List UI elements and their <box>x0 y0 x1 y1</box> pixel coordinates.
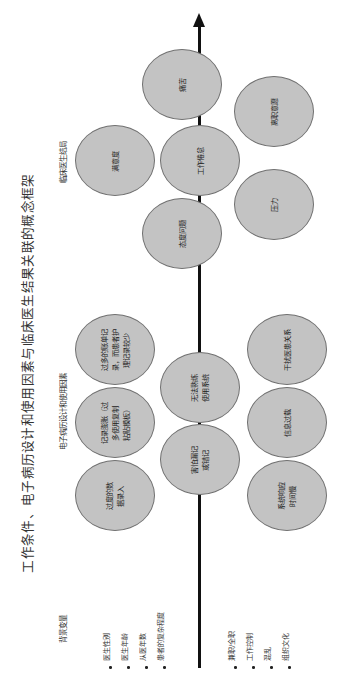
background-variable: 医生年龄 <box>119 633 129 661</box>
bullet-icon <box>270 666 273 669</box>
outcome-distress: 痛苦 <box>142 49 222 120</box>
outcome-label: 满意度 <box>110 150 121 171</box>
outcome-label: 离职意愿 <box>269 98 280 126</box>
bullet-icon <box>234 666 237 669</box>
outcome-attitude: 态度问题 <box>142 198 222 269</box>
factor-excess-billing: 过多的账单记 录，而患者护 理记录较少 <box>75 314 155 385</box>
factor-label: 过度的数 据录入 <box>104 482 126 510</box>
bullet-icon <box>145 666 148 669</box>
outcome-label: 态度问题 <box>177 220 188 248</box>
outcome-label: 痛苦 <box>177 78 188 92</box>
section-label-ehr-factors: 电子病历设计和使用因素 <box>57 373 68 450</box>
factor-fear-errors: 害怕漏记 或错记 <box>160 424 240 495</box>
factor-info-overload: 信息过载 <box>247 387 327 458</box>
outcome-satisfaction: 满意度 <box>75 125 155 196</box>
background-variable: 医生性别 <box>101 633 111 661</box>
work-condition: 混乱 <box>262 647 272 661</box>
factor-interferes-relationship: 干扰医患关系 <box>247 314 327 385</box>
central-axis-line <box>198 24 201 668</box>
outcome-label: 工作倦怠 <box>195 147 206 175</box>
factor-note-bloat: 记录膨胀（过 多使用复制 粘贴模板） <box>75 387 155 458</box>
factor-label: 系统响应 时间慢 <box>276 482 298 510</box>
bullet-icon <box>163 666 166 669</box>
work-condition: 组织文化 <box>280 633 290 661</box>
factor-excess-data-entry: 过度的数 据录入 <box>75 460 155 531</box>
outcome-intent-to-leave: 离职意愿 <box>234 76 314 147</box>
bullet-icon <box>127 666 130 669</box>
bullet-icon <box>109 666 112 669</box>
factor-label: 干扰医患关系 <box>282 329 293 371</box>
bullet-icon <box>288 666 291 669</box>
outcome-burnout: 工作倦怠 <box>160 125 240 196</box>
background-variable: 患者的复杂程度 <box>155 612 165 661</box>
factor-label: 信息过载 <box>282 409 293 437</box>
factor-slow-response: 系统响应 时间慢 <box>247 460 327 531</box>
bullet-icon <box>252 666 255 669</box>
factor-not-proficient: 无法熟练 使用系统 <box>160 352 240 423</box>
factor-label: 无法熟练 使用系统 <box>189 374 211 402</box>
section-label-outcomes: 临床医生结局 <box>57 141 68 183</box>
section-label-background: 背景变量 <box>57 615 68 643</box>
factor-label: 过多的账单记 录，而患者护 理记录较少 <box>99 329 132 371</box>
background-variable: 从医年数 <box>137 633 147 661</box>
work-condition: 兼职/全职 <box>226 631 236 661</box>
outcome-stress: 压力 <box>234 169 314 240</box>
factor-label: 记录膨胀（过 多使用复制 粘贴模板） <box>99 402 132 444</box>
outcome-label: 压力 <box>269 198 280 212</box>
work-condition: 工作控制 <box>244 633 254 661</box>
diagram-title: 工作条件、电子病历设计和使用因素与临床医生结果关联的概念框架 <box>17 174 36 573</box>
factor-label: 害怕漏记 或错记 <box>189 446 211 474</box>
